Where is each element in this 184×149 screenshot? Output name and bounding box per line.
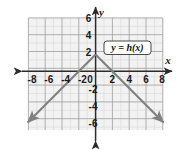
x-tick-label: 2: [110, 74, 116, 85]
y-tick-label: -2: [89, 84, 98, 95]
x-tick-label: 4: [126, 74, 132, 85]
x-tick-label: 8: [159, 74, 165, 85]
x-tick-label: -4: [61, 74, 70, 85]
x-tick-label-zero: 0: [87, 74, 93, 85]
y-axis-label: y: [97, 6, 104, 18]
y-tick-label: 6: [86, 13, 92, 24]
x-tick-label: -2: [78, 74, 87, 85]
x-tick-label: -8: [28, 74, 37, 85]
y-tick-label: 4: [86, 30, 92, 41]
coordinate-plane-plot: -8 -6 -4 -2 0 2 4 6 8 6 4 2 -2 -4 -6 x y…: [0, 0, 184, 149]
y-tick-label: 2: [86, 47, 92, 58]
y-tick-label: -6: [89, 118, 98, 129]
x-tick-label: -6: [44, 74, 53, 85]
function-label: y = h(x): [104, 41, 151, 55]
graph-figure: -8 -6 -4 -2 0 2 4 6 8 6 4 2 -2 -4 -6 x y…: [0, 0, 184, 149]
x-axis-label: x: [164, 54, 171, 66]
function-label-text: y = h(x): [110, 42, 143, 54]
y-tick-label: -4: [89, 101, 98, 112]
x-tick-label: 6: [143, 74, 149, 85]
